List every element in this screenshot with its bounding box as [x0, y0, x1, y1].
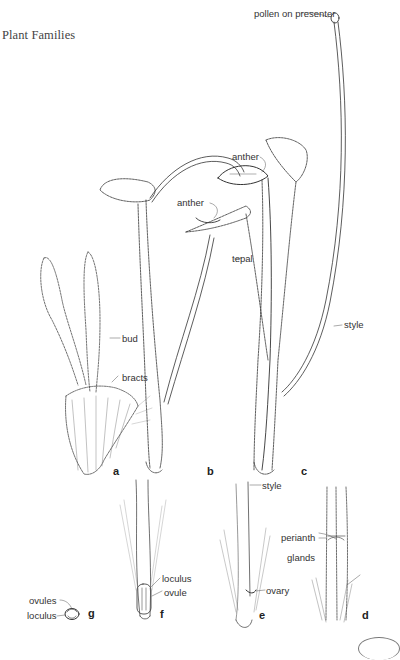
- panel-label-e: e: [259, 610, 265, 621]
- panel-label-f: f: [160, 609, 164, 620]
- label-glands: glands: [287, 553, 315, 563]
- panel-label-a: a: [113, 466, 119, 477]
- label-ovary: ovary: [266, 586, 289, 596]
- label-ovules: ovules: [29, 596, 56, 606]
- label-anther-lower: anther: [177, 198, 204, 208]
- label-pollen-on-presenter: pollen on presenter: [254, 9, 335, 19]
- panel-label-c: c: [301, 466, 307, 477]
- label-bud: bud: [122, 334, 138, 344]
- panel-e-drawing: [220, 482, 270, 628]
- panel-label-d: d: [362, 610, 369, 621]
- label-bracts: bracts: [122, 373, 148, 383]
- label-perianth: perianth: [281, 533, 315, 543]
- panel-b-drawing: [100, 156, 244, 473]
- panel-f-drawing: [120, 480, 166, 619]
- label-style-e: style: [262, 481, 282, 491]
- label-tepal: tepal: [232, 254, 253, 264]
- leader-lines: [57, 13, 360, 616]
- panel-c-drawing: [186, 13, 345, 474]
- label-anther-upper: anther: [232, 152, 259, 162]
- label-loculus-g: loculus: [27, 611, 57, 621]
- panel-d-drawing: [312, 487, 352, 622]
- panel-g-drawing: [65, 609, 79, 620]
- label-loculus-f: loculus: [162, 574, 192, 584]
- label-style-c: style: [344, 320, 364, 330]
- panel-label-g: g: [88, 608, 95, 619]
- page-number-badge-edge: [358, 637, 400, 660]
- panel-label-b: b: [207, 466, 214, 477]
- label-ovule: ovule: [164, 588, 187, 598]
- panel-a-drawing: [41, 252, 152, 474]
